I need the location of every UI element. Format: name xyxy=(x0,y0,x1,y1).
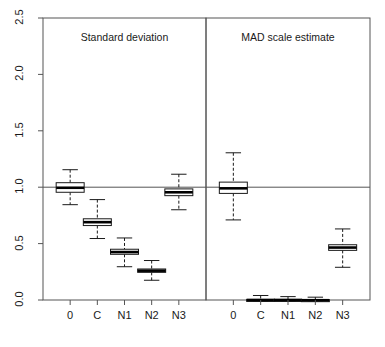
boxplot-standard-deviation-0 xyxy=(56,170,84,205)
panel-frame-right xyxy=(206,18,370,300)
boxplot-standard-deviation-N2 xyxy=(138,261,166,281)
y-tick-label: 2.0 xyxy=(13,60,25,86)
panel-frame-left xyxy=(43,18,206,300)
y-tick-label: 2.5 xyxy=(13,4,25,30)
y-tick-label: 1.5 xyxy=(13,117,25,143)
boxplot-figure: 0.00.51.01.52.02.5Standard deviation0CN1… xyxy=(0,0,385,347)
plot-canvas xyxy=(0,0,385,347)
y-tick-label: 0.0 xyxy=(13,286,25,312)
y-tick-label: 0.5 xyxy=(13,230,25,256)
x-tick-label-N3: N3 xyxy=(327,309,359,321)
panel-title: MAD scale estimate xyxy=(206,31,370,43)
y-tick-label: 1.0 xyxy=(13,173,25,199)
boxplot-mad-scale-estimate-N3 xyxy=(329,229,357,267)
boxplot-standard-deviation-C xyxy=(83,200,111,239)
x-tick-label-N3: N3 xyxy=(163,309,195,321)
panel-title: Standard deviation xyxy=(43,31,206,43)
boxplot-standard-deviation-N3 xyxy=(165,174,193,210)
boxplot-mad-scale-estimate-0 xyxy=(219,153,247,220)
boxplot-standard-deviation-N1 xyxy=(111,238,139,267)
